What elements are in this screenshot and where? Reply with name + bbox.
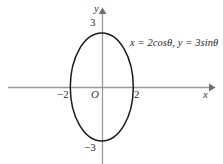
parametric-ellipse-figure: y x O 3 −3 2 −2 x = 2cosθ, y = 3sinθ (0, 0, 223, 164)
graph-canvas (0, 0, 223, 164)
parametric-equation-annotation: x = 2cosθ, y = 3sinθ (130, 38, 218, 49)
y-tick-label-negative: −3 (84, 142, 96, 153)
x-axis-label: x (203, 89, 208, 100)
y-axis-label: y (94, 3, 99, 14)
equation-y-part: y = 3sinθ (178, 37, 219, 48)
origin-label: O (91, 89, 99, 100)
y-tick-label-positive: 3 (90, 17, 96, 28)
x-axis (8, 84, 216, 92)
x-tick-label-negative: −2 (57, 89, 69, 100)
x-tick-label-positive: 2 (134, 89, 140, 100)
x-axis-arrowhead (209, 84, 216, 92)
y-axis-arrowhead (99, 8, 107, 15)
equation-x-part: x = 2cosθ (130, 37, 172, 48)
